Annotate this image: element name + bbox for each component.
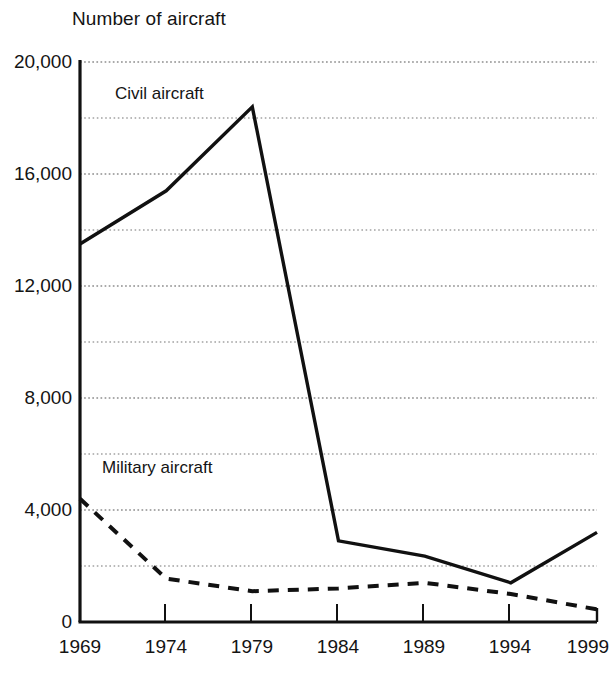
series-line-military	[80, 499, 597, 610]
series-label-civil: Civil aircraft	[115, 84, 204, 104]
x-tick-label-1989: 1989	[403, 636, 445, 658]
series-label-military: Military aircraft	[102, 458, 213, 478]
x-tick-label-1974: 1974	[145, 636, 187, 658]
x-tick-label-1994: 1994	[489, 636, 531, 658]
x-axis-ticks	[165, 604, 509, 622]
line-chart: Number of aircraft 20,000 16,000 12,000 …	[0, 0, 613, 678]
x-tick-label-1984: 1984	[317, 636, 359, 658]
series-line-civil	[80, 107, 597, 583]
chart-canvas	[0, 0, 613, 678]
x-tick-label-1999: 1999	[567, 636, 609, 658]
x-tick-label-1969: 1969	[59, 636, 101, 658]
x-tick-label-1979: 1979	[231, 636, 273, 658]
major-gridlines	[80, 62, 597, 510]
minor-gridlines	[80, 118, 597, 566]
